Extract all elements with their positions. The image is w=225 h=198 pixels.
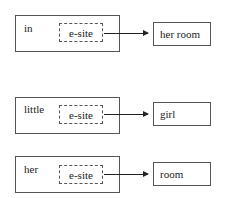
target-box: girl — [153, 102, 211, 126]
arrow-connector — [104, 174, 148, 175]
target-box: her room — [153, 22, 211, 46]
arrowhead-icon — [143, 111, 149, 117]
e-site-box: e-site — [59, 105, 103, 124]
arrow-connector — [104, 114, 148, 115]
arrowhead-icon — [143, 30, 149, 36]
arrowhead-icon — [143, 171, 149, 177]
target-box: room — [153, 162, 211, 186]
word-label: her — [24, 163, 38, 175]
word-label: in — [24, 22, 33, 34]
e-site-box: e-site — [59, 23, 103, 42]
arrow-connector — [104, 33, 148, 34]
word-label: little — [24, 103, 44, 115]
e-site-box: e-site — [59, 165, 103, 184]
